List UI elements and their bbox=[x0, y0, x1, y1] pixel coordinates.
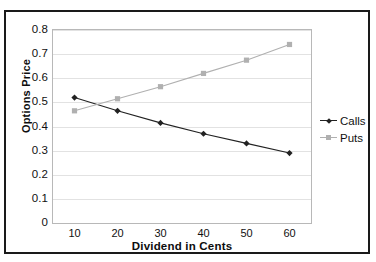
data-point-puts bbox=[72, 108, 77, 113]
x-tick-label: 20 bbox=[111, 227, 123, 239]
legend-marker-square-icon bbox=[326, 135, 331, 140]
legend-item-calls[interactable]: Calls bbox=[320, 112, 370, 129]
data-point-puts bbox=[158, 84, 163, 89]
series-line-calls bbox=[75, 98, 290, 154]
y-tick-label: 0 bbox=[42, 216, 49, 228]
y-axis-tick-labels: 00.10.20.30.40.50.60.70.8 bbox=[14, 29, 48, 224]
y-tick-label: 0.3 bbox=[32, 144, 48, 156]
chart-figure: Options Price 00.10.20.30.40.50.60.70.8 … bbox=[4, 10, 370, 254]
legend-swatch-puts-icon bbox=[320, 133, 337, 143]
y-tick-label: 0.8 bbox=[32, 23, 48, 35]
data-point-calls bbox=[200, 131, 206, 137]
series-lines bbox=[53, 30, 311, 223]
x-axis-title: Dividend in Cents bbox=[52, 240, 312, 252]
y-tick-label: 0.4 bbox=[32, 120, 48, 132]
y-tick-label: 0.6 bbox=[32, 71, 48, 83]
data-point-calls bbox=[243, 140, 249, 146]
data-point-calls bbox=[286, 150, 292, 156]
data-point-puts bbox=[244, 58, 249, 63]
data-point-calls bbox=[114, 108, 120, 114]
y-tick-label: 0.2 bbox=[32, 168, 48, 180]
data-point-puts bbox=[201, 71, 206, 76]
x-tick-label: 30 bbox=[154, 227, 166, 239]
legend-marker-diamond-icon bbox=[326, 118, 332, 124]
data-point-puts bbox=[287, 42, 292, 47]
x-tick-label: 60 bbox=[283, 227, 295, 239]
chart-legend: CallsPuts bbox=[320, 112, 370, 146]
plot-area bbox=[52, 29, 312, 224]
data-point-calls bbox=[157, 120, 163, 126]
y-tick-label: 0.5 bbox=[32, 95, 48, 107]
legend-label: Puts bbox=[340, 132, 363, 144]
series-line-puts bbox=[75, 45, 290, 111]
x-tick-label: 10 bbox=[68, 227, 80, 239]
legend-swatch-calls-icon bbox=[320, 116, 337, 126]
legend-label: Calls bbox=[340, 115, 366, 127]
data-point-puts bbox=[115, 96, 120, 101]
x-tick-label: 40 bbox=[197, 227, 209, 239]
data-point-calls bbox=[71, 94, 77, 100]
y-tick-label: 0.1 bbox=[32, 192, 48, 204]
legend-item-puts[interactable]: Puts bbox=[320, 129, 370, 146]
x-tick-label: 50 bbox=[240, 227, 252, 239]
y-tick-label: 0.7 bbox=[32, 47, 48, 59]
